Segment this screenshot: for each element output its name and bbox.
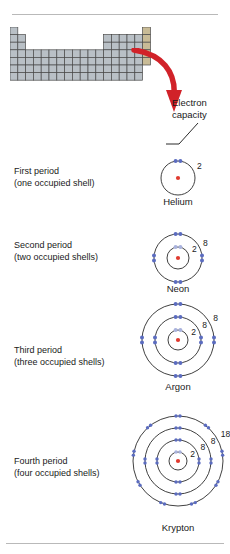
periodic-table-cell bbox=[10, 50, 18, 58]
electron-dot bbox=[136, 480, 139, 483]
periodic-table-cell bbox=[26, 50, 34, 58]
periodic-table-cell bbox=[111, 50, 119, 58]
shell-capacity-label: 8 bbox=[203, 238, 208, 248]
electron-dot bbox=[174, 426, 177, 429]
atom-diagram-argon: 288 bbox=[130, 292, 226, 388]
period-label-1: First period(one occupied shell) bbox=[14, 166, 95, 189]
periodic-table-cell bbox=[65, 73, 73, 81]
periodic-table-cell bbox=[57, 50, 65, 58]
periodic-table-cell bbox=[104, 65, 112, 73]
periodic-table-cell bbox=[88, 50, 96, 58]
electron-dot bbox=[174, 245, 178, 249]
periodic-table-cell bbox=[18, 42, 26, 50]
shell-capacity-label: 8 bbox=[213, 313, 218, 323]
periodic-table-cell bbox=[88, 73, 96, 81]
nucleus-dot bbox=[176, 256, 180, 260]
electron-dot bbox=[209, 457, 212, 460]
periodic-table-cell bbox=[33, 57, 41, 65]
electron-dot bbox=[178, 438, 181, 441]
periodic-table-cell bbox=[33, 65, 41, 73]
electron-dot bbox=[199, 340, 203, 344]
electron-dot bbox=[174, 315, 178, 319]
period-name: Third period bbox=[14, 345, 105, 357]
electron-dot bbox=[178, 159, 182, 163]
electron-dot bbox=[178, 328, 182, 332]
electron-dot bbox=[155, 457, 158, 460]
electron-dot bbox=[221, 453, 224, 456]
electron-dot bbox=[163, 502, 166, 505]
periodic-table-noble-gas-cell bbox=[143, 27, 151, 35]
electron-dot bbox=[204, 424, 207, 427]
periodic-table-cell bbox=[18, 50, 26, 58]
shell-capacity-label: 18 bbox=[221, 429, 230, 439]
electron-dot bbox=[174, 328, 178, 332]
periodic-table-cell bbox=[96, 50, 104, 58]
periodic-table-cell bbox=[80, 57, 88, 65]
periodic-table-cell bbox=[41, 73, 49, 81]
periodic-table-cell bbox=[80, 73, 88, 81]
electron-dot bbox=[178, 450, 181, 453]
period-label-3: Third period(three occupied shells) bbox=[14, 345, 105, 368]
electron-dot bbox=[140, 340, 144, 344]
periodic-table-cell bbox=[18, 57, 26, 65]
electron-dot bbox=[178, 414, 181, 417]
atom-diagram-krypton: 28818 bbox=[121, 404, 230, 518]
electron-dot bbox=[152, 258, 156, 262]
periodic-table-cell bbox=[49, 65, 57, 73]
periodic-table-cell bbox=[33, 73, 41, 81]
periodic-table-cell bbox=[57, 65, 65, 73]
periodic-table-cell bbox=[111, 35, 119, 43]
electron-dot bbox=[174, 302, 178, 306]
periodic-table-cell bbox=[33, 50, 41, 58]
electron-dot bbox=[178, 302, 182, 306]
electron-capacity-callout: Electron capacity bbox=[172, 97, 207, 120]
periodic-table-cell bbox=[65, 65, 73, 73]
periodic-table-cell bbox=[96, 65, 104, 73]
periodic-table-cell bbox=[80, 65, 88, 73]
callout-line-1: Electron bbox=[172, 97, 207, 109]
electron-dot bbox=[174, 232, 178, 236]
bottom-divider-rule bbox=[6, 543, 224, 544]
electron-dot bbox=[132, 450, 135, 453]
periodic-table-cell bbox=[119, 65, 127, 73]
shell-capacity-label: 8 bbox=[211, 436, 216, 446]
shell-capacity-label: 8 bbox=[200, 442, 205, 452]
periodic-table-cell bbox=[57, 57, 65, 65]
electron-dot bbox=[174, 374, 178, 378]
electron-dot bbox=[212, 336, 216, 340]
periodic-table-cell bbox=[49, 50, 57, 58]
period-shell-note: (four occupied shells) bbox=[14, 468, 100, 480]
electron-dot bbox=[174, 159, 178, 163]
electron-dot bbox=[197, 461, 200, 464]
periodic-table-cell bbox=[41, 65, 49, 73]
electron-dot bbox=[174, 361, 178, 365]
periodic-table-cell bbox=[18, 65, 26, 73]
periodic-table-cell bbox=[57, 73, 65, 81]
periodic-table-cell bbox=[18, 35, 26, 43]
periodic-table-cell bbox=[119, 35, 127, 43]
electron-dot bbox=[197, 457, 200, 460]
shell-capacity-label: 2 bbox=[190, 449, 195, 459]
element-name-argon: Argon bbox=[118, 381, 230, 392]
electron-dot bbox=[174, 480, 177, 483]
periodic-table-cell bbox=[10, 42, 18, 50]
periodic-table-cell bbox=[65, 57, 73, 65]
nucleus-dot bbox=[176, 338, 180, 342]
electron-dot bbox=[209, 461, 212, 464]
period-name: Second period bbox=[14, 240, 98, 252]
electron-dot bbox=[194, 501, 197, 504]
periodic-table-cell bbox=[88, 57, 96, 65]
shell-capacity-label: 2 bbox=[191, 327, 196, 337]
periodic-table-cell bbox=[72, 73, 80, 81]
shell-capacity-label: 8 bbox=[202, 320, 207, 330]
periodic-table-cell bbox=[119, 42, 127, 50]
electron-dot bbox=[174, 414, 177, 417]
periodic-table-cell bbox=[111, 57, 119, 65]
periodic-table-cell bbox=[72, 65, 80, 73]
periodic-table-cell bbox=[18, 73, 26, 81]
electron-dot bbox=[178, 426, 181, 429]
electron-dot bbox=[178, 480, 181, 483]
periodic-table-cell bbox=[80, 50, 88, 58]
electron-dot bbox=[146, 426, 149, 429]
electron-dot bbox=[140, 336, 144, 340]
